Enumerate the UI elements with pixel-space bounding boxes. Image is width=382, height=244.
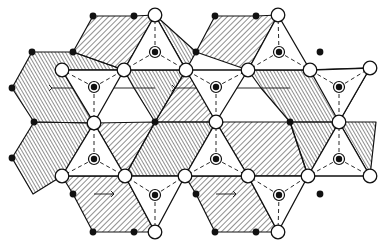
open-atom [179,63,193,77]
filled-atom [9,155,16,162]
open-atom [332,115,346,129]
central-atom-core [213,156,219,162]
filled-atom [152,119,159,126]
open-atom [178,169,192,183]
central-atom-core [336,84,342,90]
filled-atom [9,85,16,92]
open-atom [55,169,69,183]
open-atom [148,225,162,239]
open-atom [87,116,101,130]
filled-atom [317,191,324,198]
hatched-polyhedra-layer [12,15,376,232]
filled-atom [193,49,200,56]
open-atom [271,8,285,22]
filled-atom [317,49,324,56]
open-atom [55,63,69,77]
filled-atom [131,229,138,236]
open-atom [148,8,162,22]
crystal-structure-diagram [0,0,382,244]
central-atom-core [91,156,97,162]
open-atom [209,115,223,129]
open-atom [363,169,377,183]
filled-atom [31,119,38,126]
filled-atom [70,191,77,198]
filled-atom [253,229,260,236]
structure-figure [0,0,382,244]
open-atom [363,61,377,75]
open-atom [118,169,132,183]
filled-atom [193,191,200,198]
central-atom-core [213,84,219,90]
open-atom [301,169,315,183]
central-atom-core [276,49,282,55]
central-atom-core [336,156,342,162]
filled-atom [90,229,97,236]
open-atom [241,63,255,77]
open-atom [241,169,255,183]
central-atom-core [91,84,97,90]
filled-atom [253,13,260,20]
filled-atom [29,49,36,56]
central-atom-core [152,192,158,198]
filled-atom [70,49,77,56]
filled-atom [287,119,294,126]
central-atom-core [152,49,158,55]
filled-atom [212,229,219,236]
central-atom-core [276,192,282,198]
filled-atom [90,13,97,20]
open-atom [271,225,285,239]
open-atom [303,63,317,77]
filled-atom [212,13,219,20]
open-atom [117,63,131,77]
filled-atom [131,13,138,20]
